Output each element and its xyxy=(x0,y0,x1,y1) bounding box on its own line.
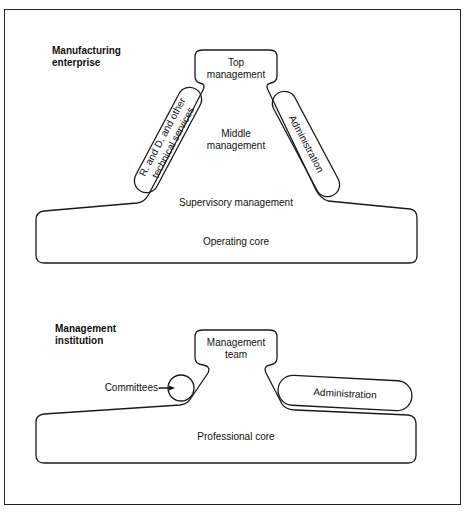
section-title-line2: enterprise xyxy=(52,57,121,69)
section-title-line1: Manufacturing xyxy=(52,45,121,57)
management-team-label: Management team xyxy=(196,337,276,361)
label-line: management xyxy=(196,69,276,81)
supervisory-management-label: Supervisory management xyxy=(166,197,306,209)
operating-core-label: Operating core xyxy=(166,236,306,248)
middle-management-label: Middle management xyxy=(196,128,276,152)
section-title-manufacturing: Manufacturing enterprise xyxy=(52,45,121,69)
label-line: management xyxy=(196,140,276,152)
professional-core-label: Professional core xyxy=(166,431,306,443)
label-line: Management xyxy=(196,337,276,349)
label-line: team xyxy=(196,349,276,361)
section-title-line1: Management xyxy=(55,323,116,335)
label-line: Top xyxy=(196,57,276,69)
committees-label: Committees xyxy=(100,382,158,394)
section-title-management-institution: Management institution xyxy=(55,323,116,347)
arrow-head-icon xyxy=(169,386,175,391)
label-line: Middle xyxy=(196,128,276,140)
section-title-line2: institution xyxy=(55,335,116,347)
top-management-shape xyxy=(36,50,417,263)
top-management-label: Top management xyxy=(196,57,276,81)
